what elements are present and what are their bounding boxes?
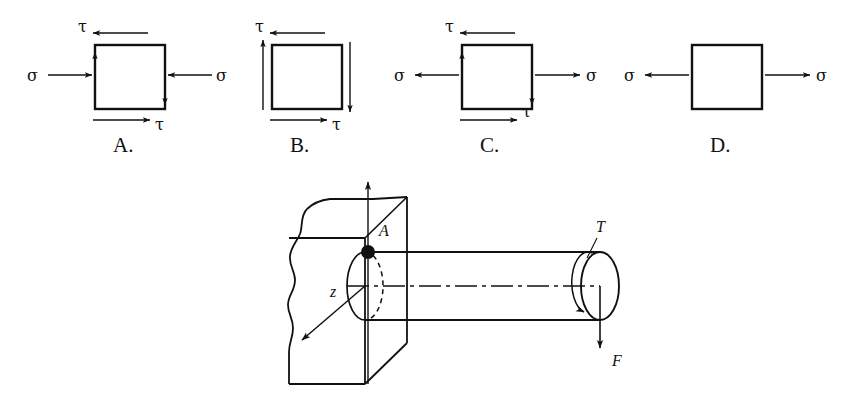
option-a-shear-top-label: τ xyxy=(78,17,87,36)
option-d: σ σ D. xyxy=(624,45,827,157)
wall-break-edge xyxy=(288,209,307,384)
option-c-normal-left-label: σ xyxy=(394,66,405,85)
wall-bottom-diagonal xyxy=(365,343,407,384)
option-a-normal-left-label: σ xyxy=(27,66,38,85)
shaft-diagram: A z T F xyxy=(288,182,622,384)
option-d-normal-right-label: σ xyxy=(816,66,827,85)
option-d-normal-left-label: σ xyxy=(624,66,635,85)
option-a-normal-right-label: σ xyxy=(216,66,227,85)
option-b-label: B. xyxy=(290,133,309,157)
option-d-label: D. xyxy=(710,133,730,157)
option-c-label: C. xyxy=(480,133,499,157)
option-c-normal-right-label: σ xyxy=(586,66,597,85)
option-b-shear-bottom-label: τ xyxy=(332,115,341,134)
point-a-label: A xyxy=(378,222,389,239)
option-b-square xyxy=(272,45,342,109)
stress-element-figure: τ τ σ σ A. τ τ B. τ τ σ σ xyxy=(0,0,852,395)
force-label: F xyxy=(611,352,622,369)
option-a-square xyxy=(95,45,165,109)
wall-top-back-edge xyxy=(307,197,407,209)
option-c-square xyxy=(462,45,532,109)
option-c: τ τ σ σ C. xyxy=(394,17,597,157)
option-d-square xyxy=(692,45,762,109)
option-a-shear-bottom-label: τ xyxy=(155,115,164,134)
option-b: τ τ B. xyxy=(255,17,350,157)
option-a-label: A. xyxy=(113,133,133,157)
option-c-shear-bottom-label: τ xyxy=(522,102,531,121)
option-a: τ τ σ σ A. xyxy=(27,17,227,157)
option-b-shear-top-label: τ xyxy=(255,17,264,36)
z-axis-label: z xyxy=(329,283,337,300)
option-c-shear-top-label: τ xyxy=(445,17,454,36)
torque-label: T xyxy=(596,218,606,235)
